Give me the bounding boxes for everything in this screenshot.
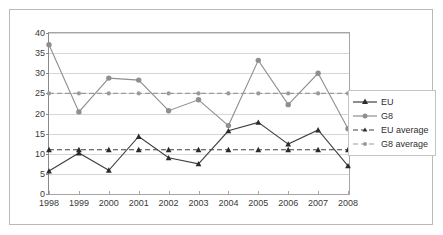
x-axis-tick-label: 2000: [99, 199, 119, 208]
data-point: [47, 91, 51, 95]
series-g8-average: [47, 91, 350, 95]
data-point: [46, 168, 52, 173]
legend-item-eu: EU: [352, 95, 432, 109]
data-point: [167, 91, 171, 95]
legend-label-eu-average: EU average: [381, 126, 429, 135]
data-point: [107, 91, 111, 95]
legend-swatch-g8: [352, 110, 378, 122]
y-axis-tick-label: 25: [35, 89, 45, 98]
data-point: [76, 109, 81, 114]
series-g8: [46, 42, 350, 132]
x-axis-tick-label: 2006: [278, 199, 298, 208]
legend-swatch-g8-average: [352, 138, 378, 150]
y-axis-tick-mark: [46, 194, 49, 195]
legend-swatch-eu: [352, 96, 378, 108]
chart-frame: 0510152025303540 19981999200020012002200…: [9, 9, 433, 225]
data-point: [315, 71, 320, 76]
data-point: [256, 91, 260, 95]
data-point: [137, 91, 141, 95]
x-axis-tick-label: 2002: [159, 199, 179, 208]
legend-label-eu: EU: [381, 98, 394, 107]
x-axis-tick-label: 2004: [218, 199, 238, 208]
data-point: [286, 102, 291, 107]
y-axis-tick-label: 5: [40, 169, 45, 178]
data-point: [136, 134, 142, 139]
x-axis-tick-label: 2007: [308, 199, 328, 208]
y-axis-tick-label: 30: [35, 69, 45, 78]
data-point: [256, 58, 261, 63]
data-point: [226, 123, 231, 128]
y-axis-tick-label: 15: [35, 129, 45, 138]
data-point: [286, 91, 290, 95]
series-eu-average: [46, 147, 351, 152]
legend-label-g8-average: G8 average: [381, 140, 428, 149]
x-axis-tick-label: 2003: [188, 199, 208, 208]
legend-item-g8: G8: [352, 109, 432, 123]
chart-legend: EU G8 EU average: [348, 90, 436, 156]
chart-screenshot: 0510152025303540 19981999200020012002200…: [0, 0, 443, 235]
data-point: [106, 75, 111, 80]
legend-label-g8: G8: [381, 112, 393, 121]
x-axis-tick-label: 1999: [69, 199, 89, 208]
data-point: [136, 77, 141, 82]
y-axis-tick-label: 35: [35, 49, 45, 58]
series-layer: [49, 33, 349, 194]
series-eu: [46, 119, 351, 173]
data-point: [77, 91, 81, 95]
data-point: [196, 91, 200, 95]
data-point: [315, 127, 321, 132]
legend-item-eu-average: EU average: [352, 123, 432, 137]
y-axis-tick-label: 40: [35, 29, 45, 38]
data-point: [316, 91, 320, 95]
data-point: [166, 108, 171, 113]
legend-item-g8-average: G8 average: [352, 137, 432, 151]
series-line: [49, 45, 348, 129]
data-point: [196, 97, 201, 102]
data-point: [255, 119, 261, 124]
x-axis-tick-label: 2001: [129, 199, 149, 208]
x-axis-tick-label: 2008: [338, 199, 358, 208]
x-axis-tick-label: 1998: [39, 199, 59, 208]
y-axis-tick-label: 20: [35, 109, 45, 118]
y-axis-tick-label: 10: [35, 149, 45, 158]
data-point: [46, 42, 51, 47]
legend-swatch-eu-average: [352, 124, 378, 136]
plot-area: 0510152025303540 19981999200020012002200…: [48, 32, 350, 195]
data-point: [226, 91, 230, 95]
x-axis-tick-label: 2005: [248, 199, 268, 208]
